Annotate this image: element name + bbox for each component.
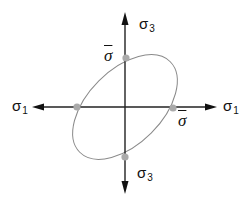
point-left-intercept xyxy=(73,103,80,110)
arrow-up-icon xyxy=(122,12,129,25)
label-sigma-bar-top: σ xyxy=(104,47,112,64)
sigma-symbol: σ xyxy=(12,97,21,114)
point-bottom-intercept xyxy=(121,153,128,160)
label-sigma3-top: σ3 xyxy=(139,16,155,34)
subscript: 1 xyxy=(233,105,239,116)
sigma-symbol: σ xyxy=(139,15,148,32)
yield-locus-diagram xyxy=(0,0,249,201)
subscript: 3 xyxy=(149,23,155,34)
arrow-left-icon xyxy=(32,104,44,111)
subscript: 3 xyxy=(147,172,153,183)
arrow-right-icon xyxy=(205,104,217,111)
label-sigma1-right: σ1 xyxy=(223,98,239,116)
sigma-symbol: σ xyxy=(223,97,232,114)
point-top-intercept xyxy=(122,54,129,61)
label-sigma1-left: σ1 xyxy=(12,98,28,116)
sigma-symbol: σ xyxy=(137,164,146,181)
point-right-intercept xyxy=(169,104,176,111)
label-sigma3-bottom: σ3 xyxy=(137,165,153,183)
label-sigma-bar-right: σ xyxy=(178,112,186,129)
subscript: 1 xyxy=(22,105,28,116)
arrow-down-icon xyxy=(122,181,129,194)
